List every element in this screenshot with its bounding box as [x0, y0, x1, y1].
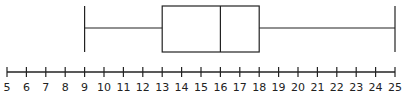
tick-label: 23 [349, 81, 363, 94]
tick-label: 16 [213, 81, 227, 94]
iqr-box [162, 6, 259, 52]
tick-label: 12 [136, 81, 150, 94]
tick-label: 8 [62, 81, 69, 94]
tick-label: 10 [97, 81, 111, 94]
tick-label: 25 [388, 81, 402, 94]
box-plot-chart: 5678910111213141516171819202122232425 [0, 0, 406, 97]
tick-label: 24 [369, 81, 383, 94]
box-plot [85, 6, 395, 52]
tick-label: 11 [116, 81, 130, 94]
tick-label: 17 [233, 81, 247, 94]
tick-label: 19 [272, 81, 286, 94]
tick-label: 5 [4, 81, 11, 94]
tick-label: 22 [330, 81, 344, 94]
tick-label: 9 [81, 81, 88, 94]
tick-label: 14 [175, 81, 189, 94]
tick-label: 13 [155, 81, 169, 94]
tick-label: 15 [194, 81, 208, 94]
tick-label: 18 [252, 81, 266, 94]
number-line-axis: 5678910111213141516171819202122232425 [4, 67, 403, 94]
tick-label: 7 [42, 81, 49, 94]
tick-label: 6 [23, 81, 30, 94]
tick-label: 20 [291, 81, 305, 94]
tick-label: 21 [310, 81, 324, 94]
